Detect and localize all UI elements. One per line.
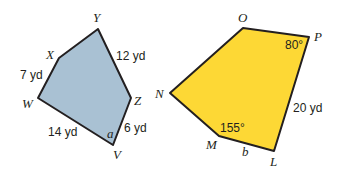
angle-p-measure: 80° [285, 38, 303, 52]
polygons-diagram: Y X W V Z 7 yd 12 yd 14 yd 6 yd a O P L … [0, 0, 340, 176]
vertex-v-label: V [113, 147, 123, 162]
angle-m-measure: 155° [220, 121, 245, 135]
vertex-z-label: Z [134, 93, 142, 108]
side-xw-length: 7 yd [20, 68, 43, 82]
side-pl-length: 20 yd [293, 101, 322, 115]
vertex-w-label: W [22, 96, 34, 111]
vertex-l-label: L [269, 154, 277, 169]
vertex-m-label: M [205, 137, 218, 152]
side-ml-label: b [242, 144, 249, 159]
angle-a-label: a [107, 126, 114, 141]
vertex-y-label: Y [93, 10, 102, 25]
vertex-p-label: P [313, 29, 322, 44]
side-yz-length: 12 yd [116, 49, 145, 63]
vertex-n-label: N [154, 86, 165, 101]
vertex-x-label: X [45, 47, 55, 62]
vertex-o-label: O [238, 10, 248, 25]
side-zv-length: 6 yd [124, 121, 147, 135]
side-wv-length: 14 yd [48, 125, 77, 139]
